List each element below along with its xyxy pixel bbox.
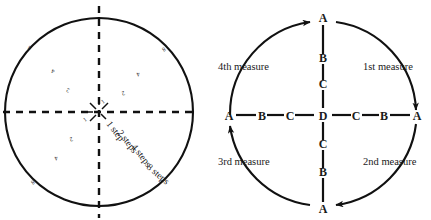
label-3rd-measure: 3rd measure — [218, 156, 270, 167]
node-horz-C-right: C — [352, 109, 361, 123]
node-vert-B-lower: B — [319, 165, 327, 179]
step-circle-svg: 1 1 1 step 2 steps 4 steps 8 steps 4 2 4… — [0, 0, 215, 220]
node-horz-B-left: B — [258, 109, 266, 123]
quadrant-digit-ur-4: 4 — [136, 71, 141, 78]
node-vert-C-upper: C — [319, 77, 328, 91]
quadrant-digit-ur-2: 2 — [121, 90, 126, 97]
center-tick-digit-right: 1 — [100, 98, 106, 105]
center-tick-digit-left: 1 — [82, 116, 88, 123]
label-4th-measure: 4th measure — [218, 61, 269, 72]
node-bottom-A: A — [319, 202, 328, 216]
label-1st-measure: 1st measure — [363, 61, 413, 72]
panel-measure-circle: A B C D C B A A B C C B A 4th measure 1s… — [215, 0, 431, 220]
node-center-D: D — [319, 109, 328, 123]
node-horz-C-left: C — [286, 109, 295, 123]
quadrant-digit-ll-2: 2 — [69, 136, 74, 143]
quadrant-digit-ul-2: 2 — [65, 87, 70, 94]
node-horz-B-right: B — [380, 109, 388, 123]
figure-container: 1 1 1 step 2 steps 4 steps 8 steps 4 2 4… — [0, 0, 431, 220]
label-2nd-measure: 2nd measure — [363, 156, 417, 167]
node-left-A: A — [225, 109, 234, 123]
panel-step-circle: 1 1 1 step 2 steps 4 steps 8 steps 4 2 4… — [0, 0, 215, 220]
node-vert-C-lower: C — [319, 137, 328, 151]
quadrant-digit-ul-4: 4 — [50, 68, 55, 75]
measure-circle-svg: A B C D C B A A B C C B A 4th measure 1s… — [215, 0, 431, 220]
step-label-8: 8 steps — [145, 162, 172, 187]
node-top-A: A — [319, 11, 328, 25]
node-right-A: A — [413, 109, 422, 123]
node-vert-B-upper: B — [319, 51, 327, 65]
quadrant-digit-ll-4: 4 — [54, 155, 59, 162]
